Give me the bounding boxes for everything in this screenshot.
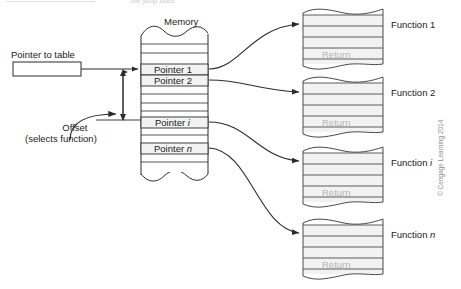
memory-cell-label-2: Pointer 2 bbox=[154, 75, 192, 86]
connector-pointeri-to-functioni bbox=[209, 122, 299, 161]
function-label-2: Function 2 bbox=[391, 87, 435, 98]
connector-pointern-to-functionn bbox=[209, 148, 299, 233]
copyright-credit: © Cengage Learning 2014 bbox=[437, 106, 444, 196]
connector-pointer1-to-function1 bbox=[209, 24, 299, 69]
function-block-1 bbox=[303, 9, 383, 69]
return-label-i: Return bbox=[322, 187, 351, 198]
function-label-n: Function n bbox=[391, 229, 435, 240]
memory-cell-label-n: Pointer n bbox=[154, 143, 192, 154]
offset-label: Offset (selects function) bbox=[53, 123, 97, 145]
offset-arrow-up bbox=[120, 69, 126, 76]
function-block-i bbox=[303, 147, 383, 207]
function-block-n bbox=[303, 219, 383, 279]
function-block-2 bbox=[303, 77, 383, 137]
function-label-i: Function i bbox=[391, 157, 432, 168]
memory-cell-label-i: Pointer i bbox=[155, 117, 190, 128]
pointer-to-table-box bbox=[13, 62, 81, 76]
memory-cell-label-1: Pointer 1 bbox=[154, 64, 192, 75]
pointer-to-table-label: Pointer to table bbox=[11, 50, 75, 60]
memory-title-label: Memory bbox=[164, 17, 198, 27]
function-pointer-table-diagram: ———————————— ble jump used bbox=[0, 0, 461, 289]
return-label-n: Return bbox=[322, 259, 351, 270]
memory-column bbox=[141, 26, 208, 181]
offset-label-line1: Offset bbox=[62, 122, 87, 133]
function-label-1: Function 1 bbox=[391, 19, 435, 30]
return-label-2: Return bbox=[322, 117, 351, 128]
offset-label-line2: (selects function) bbox=[25, 134, 97, 144]
return-label-1: Return bbox=[322, 49, 351, 60]
connector-pointer2-to-function2 bbox=[209, 80, 299, 92]
